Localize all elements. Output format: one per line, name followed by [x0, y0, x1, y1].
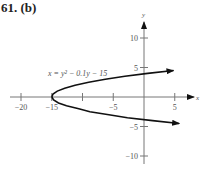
svg-text:−5: −5	[109, 103, 118, 112]
parabola-chart: xy−20−15−55105−5−10 x = y² − 0.1y − 15	[0, 0, 205, 173]
svg-text:10: 10	[130, 34, 138, 43]
svg-text:−5: −5	[129, 123, 138, 132]
svg-text:5: 5	[173, 103, 177, 112]
svg-text:5: 5	[134, 64, 138, 73]
equation-label: x = y² − 0.1y − 15	[47, 69, 107, 78]
axes: xy−20−15−55105−5−10	[10, 11, 200, 164]
svg-text:−15: −15	[45, 103, 58, 112]
svg-text:−10: −10	[125, 152, 138, 161]
svg-text:−20: −20	[15, 103, 28, 112]
svg-text:x: x	[195, 94, 200, 102]
svg-text:y: y	[141, 11, 146, 19]
